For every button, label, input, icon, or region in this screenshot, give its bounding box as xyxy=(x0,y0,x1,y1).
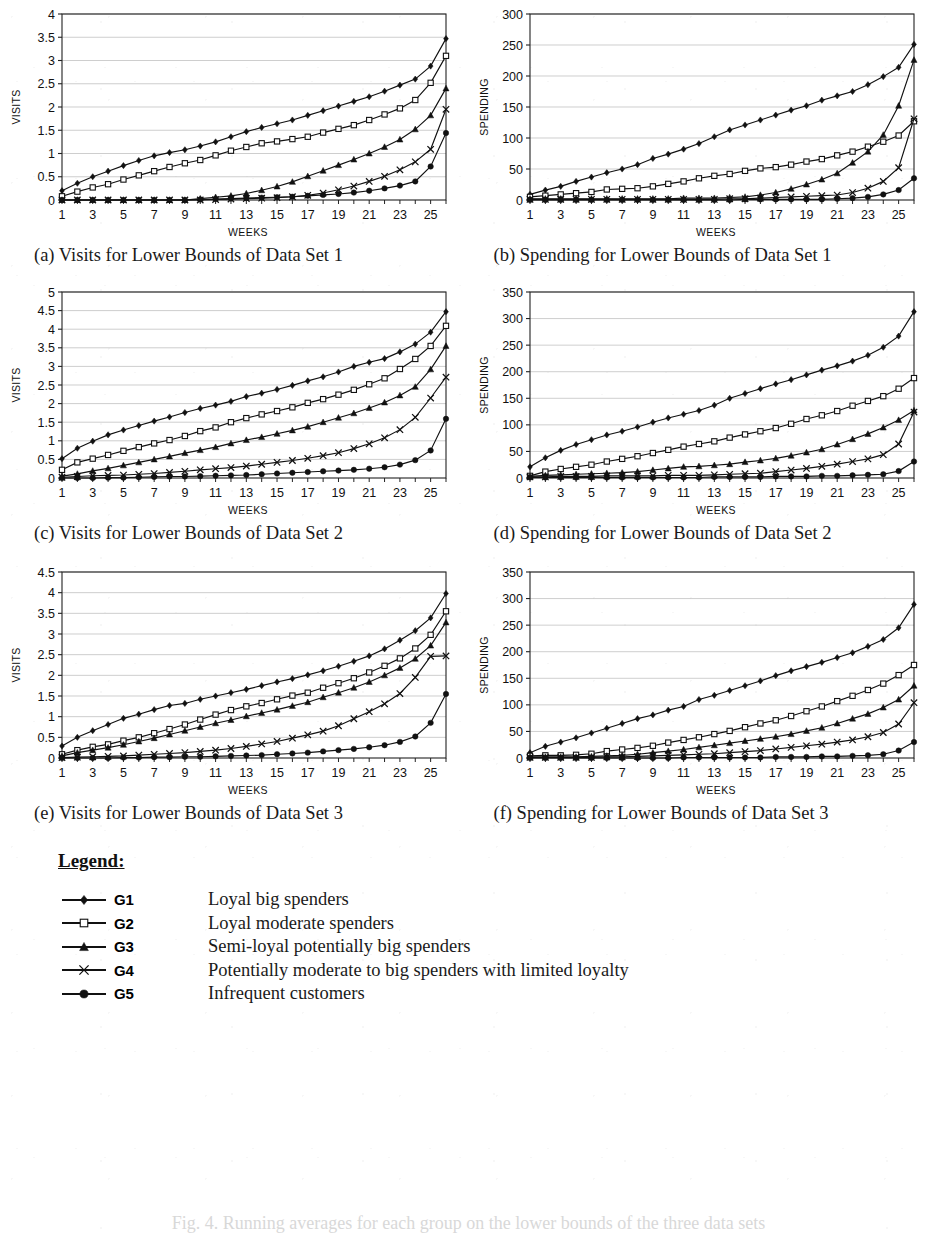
svg-text:25: 25 xyxy=(424,486,438,500)
svg-text:11: 11 xyxy=(677,766,690,780)
svg-text:0: 0 xyxy=(48,472,55,486)
svg-text:4: 4 xyxy=(48,586,55,600)
svg-text:0: 0 xyxy=(48,194,55,208)
svg-text:23: 23 xyxy=(393,766,407,780)
chart-cell-a: 00.511.522.533.54135791113151719212325WE… xyxy=(0,0,468,245)
svg-text:SPENDING: SPENDING xyxy=(478,636,490,693)
chart-cell-c: 00.511.522.533.544.551357911131517192123… xyxy=(0,278,468,523)
svg-text:21: 21 xyxy=(830,486,844,500)
svg-text:11: 11 xyxy=(677,208,690,222)
caption-row-3: (e) Visits for Lower Bounds of Data Set … xyxy=(0,803,937,824)
svg-text:15: 15 xyxy=(738,486,752,500)
svg-text:1: 1 xyxy=(527,486,534,500)
svg-text:3: 3 xyxy=(89,208,96,222)
svg-text:13: 13 xyxy=(239,208,253,222)
legend-description: Semi-loyal potentially big spenders xyxy=(208,936,471,957)
svg-text:21: 21 xyxy=(362,208,376,222)
svg-text:25: 25 xyxy=(892,208,906,222)
svg-text:17: 17 xyxy=(301,766,315,780)
chart-cell-e: 00.511.522.533.544.513579111315171921232… xyxy=(0,558,468,803)
svg-text:7: 7 xyxy=(151,486,158,500)
legend-description: Infrequent customers xyxy=(208,983,365,1004)
svg-text:150: 150 xyxy=(502,672,523,686)
svg-text:3.5: 3.5 xyxy=(38,607,55,621)
legend-item-g3: G3Semi-loyal potentially big spenders xyxy=(58,935,937,959)
svg-text:15: 15 xyxy=(270,486,284,500)
svg-text:0: 0 xyxy=(516,472,523,486)
svg-text:2: 2 xyxy=(48,669,55,683)
svg-text:13: 13 xyxy=(707,766,721,780)
legend-description: Loyal moderate spenders xyxy=(208,913,394,934)
svg-text:350: 350 xyxy=(502,286,523,300)
svg-text:4.5: 4.5 xyxy=(38,304,55,318)
svg-text:250: 250 xyxy=(502,339,523,353)
svg-text:4: 4 xyxy=(48,8,55,22)
svg-text:11: 11 xyxy=(209,208,222,222)
svg-text:9: 9 xyxy=(181,766,188,780)
svg-text:50: 50 xyxy=(509,445,523,459)
svg-text:3: 3 xyxy=(48,54,55,68)
svg-text:WEEKS: WEEKS xyxy=(696,226,736,238)
svg-text:1: 1 xyxy=(59,208,66,222)
svg-text:9: 9 xyxy=(649,766,656,780)
svg-text:7: 7 xyxy=(619,486,626,500)
diamond-filled-icon xyxy=(58,890,110,910)
legend-item-g4: G4Potentially moderate to big spenders w… xyxy=(58,959,937,983)
svg-text:3: 3 xyxy=(48,360,55,374)
chart-c: 00.511.522.533.544.551357911131517192123… xyxy=(0,278,468,523)
svg-text:9: 9 xyxy=(649,208,656,222)
svg-text:25: 25 xyxy=(424,766,438,780)
svg-text:WEEKS: WEEKS xyxy=(696,504,736,516)
svg-text:5: 5 xyxy=(588,486,595,500)
svg-text:9: 9 xyxy=(181,208,188,222)
legend-key-label: G3 xyxy=(114,938,140,955)
svg-text:1: 1 xyxy=(59,766,66,780)
svg-text:0: 0 xyxy=(516,752,523,766)
svg-text:15: 15 xyxy=(270,766,284,780)
panel-caption-d: (d) Spending for Lower Bounds of Data Se… xyxy=(478,523,937,544)
svg-text:150: 150 xyxy=(502,101,523,115)
svg-text:3.5: 3.5 xyxy=(38,341,55,355)
svg-text:WEEKS: WEEKS xyxy=(228,784,268,796)
svg-text:17: 17 xyxy=(301,486,315,500)
svg-text:WEEKS: WEEKS xyxy=(228,504,268,516)
svg-text:3: 3 xyxy=(557,208,564,222)
svg-text:1: 1 xyxy=(59,486,66,500)
panel-caption-c: (c) Visits for Lower Bounds of Data Set … xyxy=(0,523,478,544)
svg-text:100: 100 xyxy=(502,698,523,712)
legend-key-label: G2 xyxy=(114,915,140,932)
legend-key-label: G4 xyxy=(114,962,140,979)
square-open-icon xyxy=(58,913,110,933)
svg-text:0: 0 xyxy=(516,194,523,208)
svg-text:3: 3 xyxy=(89,486,96,500)
svg-text:3.5: 3.5 xyxy=(38,31,55,45)
chart-cell-f: 0501001502002503003501357911131517192123… xyxy=(468,558,936,803)
svg-text:2.5: 2.5 xyxy=(38,77,55,91)
legend-description: Potentially moderate to big spenders wit… xyxy=(208,960,629,981)
legend-description: Loyal big spenders xyxy=(208,889,349,910)
svg-text:1.5: 1.5 xyxy=(38,124,55,138)
svg-text:23: 23 xyxy=(861,766,875,780)
svg-text:7: 7 xyxy=(619,208,626,222)
svg-text:1: 1 xyxy=(48,710,55,724)
svg-text:11: 11 xyxy=(209,766,222,780)
panel-caption-f: (f) Spending for Lower Bounds of Data Se… xyxy=(478,803,937,824)
svg-text:350: 350 xyxy=(502,566,523,580)
svg-text:1: 1 xyxy=(48,147,55,161)
svg-text:3: 3 xyxy=(89,766,96,780)
svg-text:13: 13 xyxy=(239,486,253,500)
svg-text:0: 0 xyxy=(48,752,55,766)
svg-text:7: 7 xyxy=(151,208,158,222)
svg-text:50: 50 xyxy=(509,163,523,177)
caption-row-1: (a) Visits for Lower Bounds of Data Set … xyxy=(0,245,937,266)
svg-text:SPENDING: SPENDING xyxy=(478,356,490,413)
svg-text:WEEKS: WEEKS xyxy=(228,226,268,238)
svg-text:5: 5 xyxy=(48,286,55,300)
svg-text:19: 19 xyxy=(800,208,814,222)
svg-text:15: 15 xyxy=(738,766,752,780)
svg-text:VISITS: VISITS xyxy=(10,89,22,124)
svg-text:17: 17 xyxy=(301,208,315,222)
svg-text:4.5: 4.5 xyxy=(38,566,55,580)
svg-text:7: 7 xyxy=(619,766,626,780)
legend-item-g5: G5Infrequent customers xyxy=(58,982,937,1006)
